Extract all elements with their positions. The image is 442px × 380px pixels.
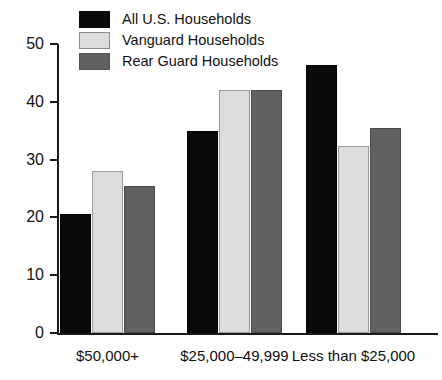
bar bbox=[370, 128, 401, 333]
y-axis-tick: 0 bbox=[50, 332, 58, 334]
bar-series-container bbox=[59, 44, 438, 333]
bar bbox=[92, 171, 123, 333]
bar bbox=[187, 131, 218, 333]
y-axis-tick-label: 40 bbox=[26, 94, 44, 110]
legend-item-label: All U.S. Households bbox=[122, 11, 251, 28]
bar bbox=[306, 65, 337, 333]
legend-swatch-black-icon bbox=[79, 11, 110, 28]
y-axis-tick: 50 bbox=[50, 43, 58, 45]
y-axis-tick-label: 0 bbox=[35, 325, 44, 341]
bar bbox=[338, 146, 369, 333]
bar-group bbox=[60, 44, 155, 333]
y-axis-tick: 10 bbox=[50, 274, 58, 276]
x-axis-category-label: Less than $25,000 bbox=[274, 348, 434, 364]
bar bbox=[219, 90, 250, 333]
bar-chart: All U.S. Households Vanguard Households … bbox=[0, 0, 442, 380]
bar-group bbox=[306, 44, 401, 333]
y-axis-tick: 30 bbox=[50, 159, 58, 161]
bar-group bbox=[187, 44, 282, 333]
y-axis-tick-label: 50 bbox=[26, 36, 44, 52]
bar bbox=[60, 214, 91, 333]
x-axis-line bbox=[57, 333, 438, 335]
legend-item: All U.S. Households bbox=[79, 9, 339, 30]
bar bbox=[251, 90, 282, 333]
y-axis-tick-label: 20 bbox=[26, 209, 44, 225]
plot-area: 01020304050 bbox=[57, 44, 438, 333]
y-axis-tick: 20 bbox=[50, 216, 58, 218]
y-axis-tick-label: 10 bbox=[26, 267, 44, 283]
y-axis-tick: 40 bbox=[50, 101, 58, 103]
y-axis-tick-label: 30 bbox=[26, 152, 44, 168]
bar bbox=[124, 186, 155, 333]
